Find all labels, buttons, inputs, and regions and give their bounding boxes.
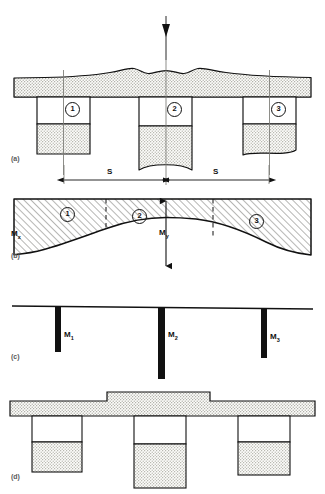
panel-label-b: (b): [11, 252, 20, 259]
moment-label-m3-base: M: [270, 332, 277, 341]
dimension-label-s-left: S: [107, 167, 112, 176]
moment-label-my-sub: y: [166, 233, 169, 239]
deck-slab-d: [10, 392, 315, 416]
moment-area-b: [14, 199, 311, 255]
moment-label-m2-sub: 2: [175, 335, 178, 341]
figure-root: [0, 0, 325, 494]
girder-stem-d-2: [134, 416, 186, 488]
panel-label-d: (d): [11, 473, 20, 480]
panel-label-c: (c): [11, 353, 20, 360]
panel-label-a: (a): [11, 155, 20, 162]
dimension-line-s: [64, 165, 269, 184]
beam-marker-b-3: 3: [249, 214, 264, 229]
girder-stem-2: [139, 97, 192, 170]
beam-marker-b-2: 2: [132, 209, 147, 224]
deck-slab-a: [14, 68, 311, 97]
moment-label-mx-sub: x: [18, 234, 21, 240]
moment-label-m2: M2: [168, 330, 178, 341]
beam-marker-b-1: 1: [60, 207, 75, 222]
moment-label-m1-sub: 1: [71, 335, 74, 341]
girder-stem-d-1: [32, 416, 82, 472]
moment-bar-3: [261, 308, 267, 358]
beam-marker-a-1: 1: [65, 102, 80, 117]
moment-label-m3: M3: [270, 332, 280, 343]
moment-label-my-base: M: [159, 228, 166, 237]
moment-label-m3-sub: 3: [277, 337, 280, 343]
moment-bar-2: [158, 307, 165, 379]
load-arrow-icon: [162, 16, 170, 60]
moment-label-mx-base: M: [11, 229, 18, 238]
moment-label-m1: M1: [64, 330, 74, 341]
beam-marker-a-2: 2: [167, 102, 182, 117]
girder-stem-d-3: [238, 416, 290, 475]
moment-label-mx: Mx: [11, 229, 21, 240]
moment-label-my: My: [159, 228, 169, 239]
moment-label-m2-base: M: [168, 330, 175, 339]
moment-label-m1-base: M: [64, 330, 71, 339]
panel-a: [14, 16, 311, 185]
beam-marker-a-3: 3: [271, 102, 286, 117]
panel-d: [10, 392, 315, 488]
moment-bar-1: [55, 307, 61, 352]
panel-c: [12, 306, 313, 379]
dimension-label-s-right: S: [213, 167, 218, 176]
